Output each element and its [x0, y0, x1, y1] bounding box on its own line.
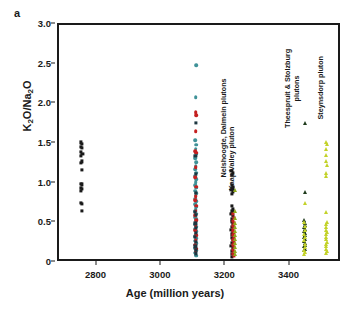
data-point: [193, 235, 196, 238]
data-point: [233, 209, 237, 213]
plot-annotation: Kaap Valley pluton: [227, 127, 236, 191]
data-point: [194, 240, 197, 243]
data-point: [303, 201, 307, 205]
y-tick-label: 3.0: [38, 18, 51, 29]
x-tick-label: 3200: [214, 269, 235, 280]
y-tick-label: 2.0: [38, 97, 51, 108]
data-point: [324, 174, 328, 178]
x-axis-tick-labels: 2800300032003400: [0, 269, 350, 283]
data-point: [230, 192, 233, 195]
y-tick-mark: [51, 261, 55, 262]
data-point: [194, 231, 197, 234]
y-tick-mark: [51, 62, 55, 63]
data-point: [80, 209, 83, 212]
plot-annotation: Theespruit & Stolzburgplutons: [284, 49, 301, 128]
data-point: [194, 95, 198, 99]
data-point: [303, 121, 307, 125]
plot-annotation: Steynsdorp pluton: [316, 56, 325, 120]
data-point: [325, 163, 329, 167]
y-tick-mark: [51, 102, 55, 103]
data-point: [325, 142, 329, 146]
data-point: [194, 192, 197, 195]
data-point: [194, 154, 197, 157]
x-tick-label: 3400: [278, 269, 299, 280]
x-tick-mark: [224, 261, 225, 265]
x-axis-title: Age (million years): [0, 287, 350, 299]
data-point: [324, 210, 328, 214]
y-tick-mark: [51, 142, 55, 143]
data-point: [194, 176, 198, 180]
data-point: [80, 161, 83, 164]
plot-area: Nelshoogte, Dalmein plutonsKaap Valley p…: [59, 25, 338, 259]
data-point: [80, 169, 83, 172]
y-tick-mark: [51, 221, 55, 222]
data-point: [233, 252, 237, 256]
data-point: [81, 203, 84, 206]
y-tick-label: 0.5: [38, 216, 51, 227]
data-point: [194, 173, 197, 176]
data-point: [79, 154, 82, 157]
data-point: [302, 252, 306, 256]
data-point: [194, 252, 197, 255]
data-point: [324, 147, 328, 151]
x-tick-mark: [159, 261, 160, 265]
data-point: [194, 64, 198, 68]
data-point: [303, 190, 307, 194]
data-point: [194, 222, 197, 225]
figure-panel-a: a K2O/Na2O 00.51.01.52.02.53.0 Nelshoogt…: [0, 0, 350, 314]
data-point: [194, 204, 198, 208]
x-tick-mark: [288, 261, 289, 265]
panel-label: a: [14, 7, 20, 19]
y-axis-tick-labels: 00.51.01.52.02.53.0: [20, 23, 51, 261]
y-tick-label: 1.5: [38, 137, 51, 148]
y-tick-mark: [51, 23, 55, 24]
data-point: [194, 165, 198, 169]
y-tick-mark: [51, 181, 55, 182]
data-point: [194, 121, 197, 124]
x-tick-mark: [95, 261, 96, 265]
data-point: [194, 199, 198, 203]
data-point: [194, 138, 198, 142]
data-point: [324, 251, 328, 255]
data-point: [79, 189, 82, 192]
data-point: [194, 185, 198, 189]
data-point: [233, 221, 237, 225]
y-tick-label: 2.5: [38, 57, 51, 68]
x-tick-label: 2800: [85, 269, 106, 280]
y-tick-label: 1.0: [38, 176, 51, 187]
data-point: [194, 130, 198, 134]
data-point: [324, 153, 328, 157]
plot-frame: Nelshoogte, Dalmein plutonsKaap Valley p…: [57, 23, 340, 261]
data-point: [194, 248, 197, 251]
data-point: [194, 213, 197, 216]
data-point: [233, 216, 237, 220]
data-point: [81, 146, 84, 149]
data-point: [194, 226, 197, 229]
data-point: [194, 114, 198, 118]
x-tick-label: 3000: [149, 269, 170, 280]
